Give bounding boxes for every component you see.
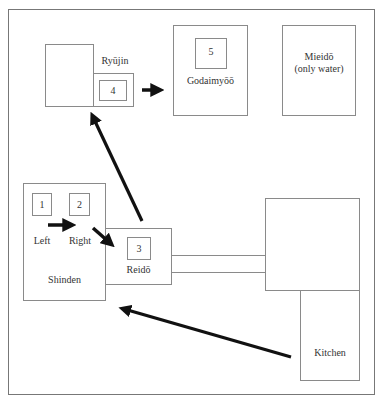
route-arrows: [0, 0, 379, 402]
arrow-kitchen-to-shinden: [124, 309, 291, 357]
arrow-right-to-reido: [93, 228, 110, 243]
arrow-reido-to-ryujin: [93, 117, 142, 221]
